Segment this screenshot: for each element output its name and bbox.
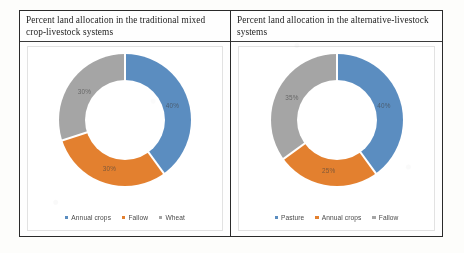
legend-label: Annual crops	[71, 214, 111, 221]
slice-percent-label: 40%	[166, 101, 179, 108]
chart-traditional: 40%30%30% Annual cropsFallowWheat	[27, 46, 223, 231]
donut-traditional: 40%30%30%	[59, 54, 191, 186]
legend-label: Pasture	[281, 214, 304, 221]
panel-alternative: Percent land allocation in the alternati…	[231, 11, 442, 236]
legend-label: Annual crops	[322, 214, 362, 221]
legend-swatch-icon	[275, 216, 278, 219]
segment-divider	[336, 53, 338, 120]
legend-traditional: Annual cropsFallowWheat	[28, 214, 222, 221]
panel-title-alternative: Percent land allocation in the alternati…	[231, 11, 442, 42]
legend-swatch-icon	[315, 216, 318, 219]
chart-alternative: 40%25%35% PastureAnnual cropsFallow	[238, 46, 435, 231]
legend-alternative: PastureAnnual cropsFallow	[239, 214, 434, 221]
legend-swatch-icon	[65, 216, 68, 219]
donut-alternative: 40%25%35%	[271, 54, 403, 186]
legend-swatch-icon	[122, 216, 125, 219]
panel-title-traditional: Percent land allocation in the tradition…	[20, 11, 230, 42]
legend-item: Fallow	[122, 214, 148, 221]
legend-label: Fallow	[128, 214, 148, 221]
slice-percent-label: 35%	[285, 94, 298, 101]
legend-label: Wheat	[165, 214, 185, 221]
slice-percent-label: 30%	[78, 87, 91, 94]
slice-percent-label: 25%	[322, 166, 335, 173]
legend-item: Wheat	[159, 214, 185, 221]
segment-divider	[124, 53, 126, 120]
slice-percent-label: 40%	[377, 101, 390, 108]
panel-traditional: Percent land allocation in the tradition…	[20, 11, 231, 236]
legend-item: Annual crops	[315, 214, 361, 221]
legend-swatch-icon	[372, 216, 375, 219]
legend-item: Fallow	[372, 214, 398, 221]
figure-table: Percent land allocation in the tradition…	[19, 10, 443, 237]
legend-item: Pasture	[275, 214, 305, 221]
legend-item: Annual crops	[65, 214, 111, 221]
legend-label: Fallow	[379, 214, 399, 221]
legend-swatch-icon	[159, 216, 162, 219]
slice-percent-label: 30%	[103, 164, 116, 171]
